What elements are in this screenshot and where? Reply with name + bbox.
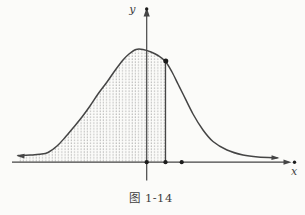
origin-dot <box>145 160 149 164</box>
figure-caption: 图 1-14 <box>129 191 173 205</box>
figure: y x 图 1-14 <box>0 0 305 215</box>
curve-point-dot <box>163 59 168 64</box>
figure-canvas: y x 图 1-14 <box>0 0 305 215</box>
shaded-region <box>18 49 166 162</box>
y-axis-top-dot <box>145 7 148 10</box>
x1-dot <box>180 160 184 164</box>
curve-right-arrow-icon <box>271 155 279 160</box>
x-axis-end-dot <box>293 161 296 164</box>
plot-area <box>12 7 296 180</box>
x0-dot <box>163 160 167 164</box>
x-axis-label: x <box>291 165 298 178</box>
y-axis-label: y <box>128 3 136 16</box>
